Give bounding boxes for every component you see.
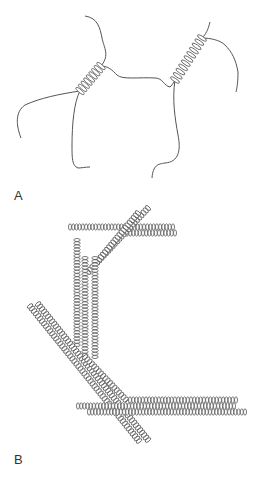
polymer-strand <box>202 38 238 92</box>
coiled-coil-rod <box>88 409 247 415</box>
coiled-coil-segment <box>75 61 106 95</box>
panel-b-label: B <box>14 452 23 467</box>
panel-a-label: A <box>14 188 23 203</box>
polymer-strand <box>85 16 106 66</box>
figure-canvas <box>0 0 257 495</box>
polymer-strand <box>152 80 179 178</box>
coiled-coil-rod <box>126 230 177 236</box>
coiled-coil-rod <box>92 257 98 359</box>
panel-b-drawing <box>27 205 247 444</box>
coiled-coil-rod <box>74 239 80 347</box>
polymer-strand <box>72 91 90 168</box>
polymer-strand <box>101 66 175 87</box>
polymer-strand <box>17 91 80 138</box>
coiled-coil-rod <box>77 403 236 409</box>
polymer-strand <box>202 22 210 38</box>
coiled-coil-rod <box>82 257 88 357</box>
panel-a-drawing <box>17 16 238 178</box>
coiled-coil-segment <box>170 34 207 84</box>
coiled-coil-rod <box>94 210 142 265</box>
coiled-coil-rod <box>129 397 238 403</box>
